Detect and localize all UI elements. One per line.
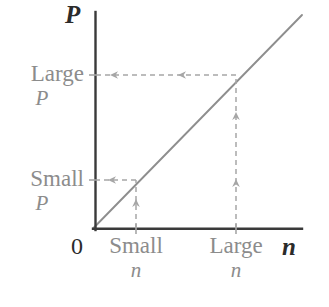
x-tick-label-large-n-sub: n	[186, 260, 286, 281]
price-quantity-diagram: P n 0 Large P Small P Small n Large n	[0, 0, 329, 307]
relation-line	[93, 15, 302, 229]
large-n-up-arrowhead-lower	[232, 179, 240, 187]
y-tick-label-large-p: Large P	[0, 62, 84, 109]
y-tick-label-small-p: Small P	[0, 167, 84, 214]
x-tick-label-small-n-main: Small	[109, 233, 163, 258]
x-tick-label-small-n: Small n	[86, 234, 186, 281]
origin-label: 0	[71, 234, 83, 258]
y-tick-label-large-p-sub: P	[0, 88, 84, 109]
y-tick-label-large-p-main: Large	[31, 61, 84, 86]
y-tick-label-small-p-sub: P	[0, 193, 84, 214]
x-tick-label-large-n: Large n	[186, 234, 286, 281]
x-tick-label-large-n-main: Large	[209, 233, 262, 258]
y-axis-name: P	[65, 2, 80, 27]
x-tick-label-small-n-sub: n	[86, 260, 186, 281]
large-p-left-arrowhead-inner	[178, 71, 186, 79]
y-tick-label-small-p-main: Small	[30, 166, 84, 191]
